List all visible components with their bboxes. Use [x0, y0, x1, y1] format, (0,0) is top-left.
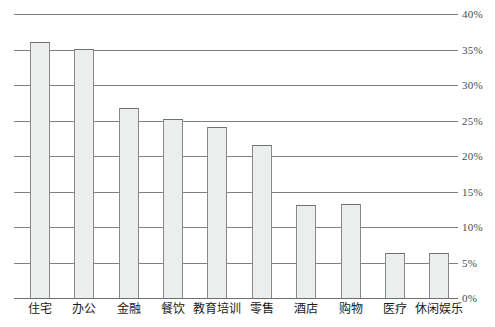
bar-chart: 40%35%30%25%20%15%10%5%0% 住宅办公金融餐饮教育培训零售… — [0, 0, 495, 327]
x-axis-category-label: 休闲娱乐 — [415, 303, 463, 315]
y-axis-tick-label: 0% — [462, 293, 477, 304]
y-axis-tick-label: 30% — [462, 80, 483, 91]
bar — [341, 204, 361, 298]
y-axis-tick-label: 5% — [462, 257, 477, 268]
bar — [74, 49, 94, 298]
y-axis-tick-label: 10% — [462, 222, 483, 233]
y-axis-tick-label: 40% — [462, 9, 483, 20]
y-axis-tick-label: 20% — [462, 151, 483, 162]
bar — [163, 119, 183, 298]
plot-area — [14, 14, 458, 298]
bar — [385, 253, 405, 298]
x-axis-category-label: 住宅 — [28, 303, 52, 315]
x-axis-category-label: 教育培训 — [193, 303, 241, 315]
y-axis-tick-label: 35% — [462, 44, 483, 55]
bar — [252, 145, 272, 298]
x-axis-category-label: 金融 — [117, 303, 141, 315]
x-axis-category-label: 购物 — [339, 303, 363, 315]
y-axis-tick-label: 15% — [462, 186, 483, 197]
bar — [30, 42, 50, 298]
y-axis-tick-label: 25% — [462, 115, 483, 126]
x-axis-category-label: 医疗 — [383, 303, 407, 315]
bar — [207, 127, 227, 298]
bar — [296, 205, 316, 298]
x-axis-category-label: 酒店 — [294, 303, 318, 315]
x-axis-category-label: 办公 — [72, 303, 96, 315]
x-axis-category-label: 零售 — [250, 303, 274, 315]
bars-group — [14, 14, 458, 298]
x-axis-category-label: 餐饮 — [161, 303, 185, 315]
bar — [429, 253, 449, 298]
bar — [119, 108, 139, 298]
x-axis-line — [14, 298, 458, 299]
